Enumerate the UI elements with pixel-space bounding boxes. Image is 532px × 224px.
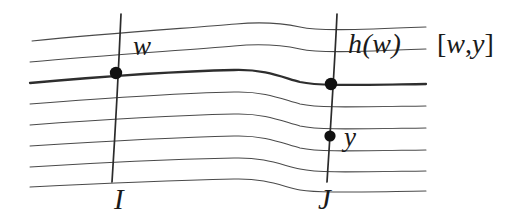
point-y-dot (324, 130, 335, 141)
label-transversal-I: I (114, 185, 124, 214)
leaf-curve (30, 114, 426, 129)
leaf-curve (30, 158, 426, 172)
point-w-dot (110, 67, 122, 79)
interval-open-bracket: [ (437, 28, 446, 59)
label-w: w (133, 33, 151, 60)
figure-container: w h(w) [w,y] y I J (0, 0, 532, 224)
leaf-curve (30, 92, 426, 107)
label-interval-w-y: [w,y] (437, 30, 494, 58)
interval-left-endpoint: w (446, 28, 465, 59)
transversal-line-J (327, 14, 337, 182)
leaf-curve-emphasized (30, 70, 426, 85)
label-h-of-w: h(w) (348, 30, 401, 58)
leaf-curve (30, 136, 426, 151)
interval-right-endpoint: y (472, 28, 484, 59)
interval-close-bracket: ] (484, 28, 493, 59)
label-y: y (344, 124, 356, 151)
interval-comma: , (465, 28, 472, 59)
leaf-curve (30, 179, 426, 192)
point-hw-dot (325, 78, 337, 90)
label-transversal-J: J (318, 185, 331, 214)
